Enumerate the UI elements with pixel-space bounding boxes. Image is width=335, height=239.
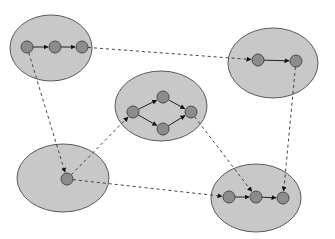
node-e3 bbox=[277, 192, 289, 204]
node-d1 bbox=[61, 173, 73, 185]
node-a1 bbox=[21, 41, 33, 53]
node-c2 bbox=[157, 91, 169, 103]
node-c4 bbox=[185, 106, 197, 118]
cluster-graph-diagram bbox=[0, 0, 335, 239]
node-b1 bbox=[252, 54, 264, 66]
node-c3 bbox=[157, 123, 169, 135]
node-b2 bbox=[290, 55, 302, 67]
edge-b1-to-b2 bbox=[264, 60, 289, 61]
node-a3 bbox=[76, 41, 88, 53]
node-a2 bbox=[49, 41, 61, 53]
cluster-B bbox=[228, 28, 318, 98]
diagram-canvas bbox=[0, 0, 335, 239]
edge-e2-to-e3 bbox=[262, 197, 276, 198]
node-e1 bbox=[223, 191, 235, 203]
node-c1 bbox=[127, 106, 139, 118]
node-e2 bbox=[250, 191, 262, 203]
edge-a3-to-b1 bbox=[88, 47, 251, 59]
